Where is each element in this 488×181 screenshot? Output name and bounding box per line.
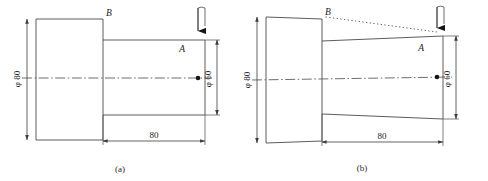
panel-a-label-dia-large: φ 80	[12, 70, 22, 87]
panel-a-label-point-a: A	[178, 44, 185, 54]
panel-b-caption: (b)	[357, 163, 368, 173]
panel-a-label-length: 80	[150, 130, 160, 140]
panel-b-label-length: 80	[378, 131, 388, 141]
panel-b-label-point-b: B	[325, 7, 331, 17]
panel-b-label-dia-large: φ 80	[242, 71, 252, 88]
panel-a-label-dia-small: φ 60	[203, 70, 213, 87]
canvas-background	[0, 0, 488, 181]
panel-a-point-a-marker	[196, 76, 201, 81]
panel-b-point-a-marker	[435, 75, 440, 80]
drawing-canvas: φ 80 φ 60 80 B A (a)	[0, 0, 488, 181]
panel-a-label-point-b: B	[106, 8, 112, 18]
panel-b-label-point-a: A	[417, 43, 424, 53]
panel-a-caption: (a)	[115, 164, 125, 174]
panel-b-label-dia-small: φ 60	[442, 70, 452, 87]
engineering-drawing-figure: φ 80 φ 60 80 B A (a)	[0, 0, 488, 181]
